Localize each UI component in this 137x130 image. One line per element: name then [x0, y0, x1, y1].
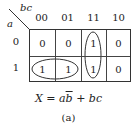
equation-term2: bc — [89, 92, 102, 105]
cell-0-11: 1 — [81, 30, 106, 56]
equation-equals: = — [46, 92, 55, 105]
col-header-11: 11 — [81, 12, 106, 23]
col-header-00: 00 — [29, 12, 54, 23]
cell-1-00: 1 — [30, 56, 55, 82]
row-header-1: 1 — [10, 62, 22, 73]
cell-0-00: 0 — [30, 30, 55, 56]
boolean-equation: X = ab + bc — [0, 92, 137, 105]
figure-caption: (a) — [0, 112, 137, 123]
cell-1-01: 1 — [56, 56, 81, 82]
kmap-grid: 0 0 1 0 1 1 1 0 — [29, 29, 131, 82]
equation-term1-b-bar: b — [66, 92, 73, 105]
equation-lhs: X — [35, 92, 43, 105]
cell-1-11: 1 — [81, 56, 106, 82]
cell-0-01: 0 — [56, 30, 81, 56]
equation-plus: + — [76, 92, 85, 105]
col-header-01: 01 — [55, 12, 80, 23]
col-header-10: 10 — [106, 12, 131, 23]
row-header-0: 0 — [10, 36, 22, 47]
cell-1-10: 0 — [106, 56, 131, 82]
row-variable-label: a — [7, 18, 13, 29]
cell-0-10: 0 — [106, 30, 131, 56]
